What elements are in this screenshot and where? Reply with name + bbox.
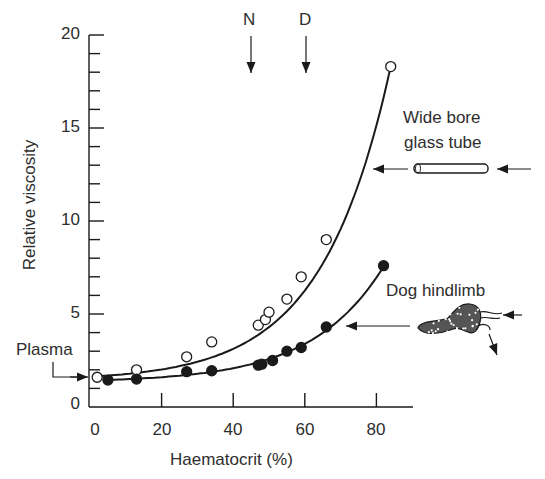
plasma-arrow-stem bbox=[53, 362, 78, 377]
y-tick-label-5: 5 bbox=[40, 303, 80, 323]
x-tick-label-0: 0 bbox=[75, 420, 115, 440]
dog-hindlimb-point bbox=[132, 374, 142, 384]
chart-canvas bbox=[0, 0, 545, 479]
glass-tube-point bbox=[264, 307, 274, 317]
x-tick-label-20: 20 bbox=[142, 420, 182, 440]
plasma-arrow-head bbox=[70, 373, 88, 382]
x-tick-label-40: 40 bbox=[213, 420, 253, 440]
dog-hindlimb-point bbox=[321, 322, 331, 332]
x-axis-label: Haematocrit (%) bbox=[170, 450, 293, 470]
dog-hindlimb-point bbox=[103, 375, 113, 385]
y-axis-label: Relative viscosity bbox=[20, 140, 40, 270]
glass-tube-point bbox=[386, 62, 396, 72]
axes bbox=[89, 35, 413, 407]
normal-haematocrit-label: N bbox=[243, 10, 255, 30]
dog-hindlimb-point bbox=[379, 261, 389, 271]
glass-tube-label-line2: glass tube bbox=[404, 133, 482, 153]
dog-hindlimb-label: Dog hindlimb bbox=[386, 281, 485, 301]
dog-hindlimb-curve bbox=[104, 267, 383, 380]
y-tick-label-15: 15 bbox=[40, 117, 80, 137]
tube-inflow-arrow bbox=[497, 165, 531, 174]
dog-hindlimb-point bbox=[268, 356, 278, 366]
glass-tube-point bbox=[132, 365, 142, 375]
y-tick-label-20: 20 bbox=[40, 24, 80, 44]
glass-tube-label-line1: Wide bore bbox=[403, 108, 480, 128]
glass-tube-point bbox=[207, 337, 217, 347]
dog-hindlimb-point bbox=[182, 367, 192, 377]
fit-curves bbox=[97, 67, 391, 380]
x-tick-label-80: 80 bbox=[356, 420, 396, 440]
glass-tube-icon bbox=[414, 164, 488, 173]
annotations bbox=[53, 36, 531, 382]
y-tick-label-10: 10 bbox=[40, 210, 80, 230]
glass-tube-point bbox=[92, 372, 102, 382]
x-tick-label-60: 60 bbox=[285, 420, 325, 440]
glass-tube-point bbox=[282, 294, 292, 304]
dog-hindlimb-pointer-arrow bbox=[346, 322, 410, 331]
hindlimb-outflow-arrow bbox=[489, 334, 497, 355]
dog-hindlimb-point bbox=[282, 346, 292, 356]
dog-hindlimb-point bbox=[207, 366, 217, 376]
glass-tube-pointer-arrow bbox=[373, 165, 408, 174]
dog-hindlimb-icon bbox=[418, 304, 502, 335]
dog-hindlimb-point bbox=[296, 342, 306, 352]
glass-tube-curve bbox=[97, 67, 391, 377]
dog-haematocrit-arrow bbox=[302, 36, 311, 73]
data-points bbox=[92, 62, 396, 385]
glass-tube-point bbox=[321, 235, 331, 245]
y-tick-label-0: 0 bbox=[40, 394, 80, 414]
glass-tube-point bbox=[296, 272, 306, 282]
plasma-label: Plasma bbox=[16, 340, 73, 360]
dog-haematocrit-label: D bbox=[299, 10, 311, 30]
dog-hindlimb-point bbox=[257, 359, 267, 369]
normal-haematocrit-arrow bbox=[247, 36, 256, 73]
glass-tube-point bbox=[182, 352, 192, 362]
hindlimb-inflow-arrow bbox=[503, 311, 522, 320]
